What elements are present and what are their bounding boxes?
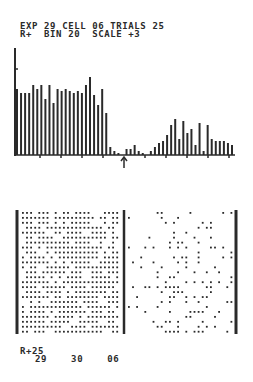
spike-raster (0, 0, 253, 382)
footer-line-2: 29 30 06 (35, 355, 119, 363)
raster-dots (22, 212, 232, 333)
